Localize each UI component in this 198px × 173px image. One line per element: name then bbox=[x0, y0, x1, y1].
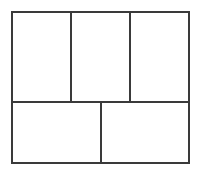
cell-top-center bbox=[71, 12, 130, 102]
cell-top-left bbox=[12, 12, 71, 102]
cell-bottom-left bbox=[12, 102, 101, 163]
top-row-divider-2 bbox=[129, 11, 131, 103]
cell-top-right bbox=[130, 12, 189, 102]
frame-left-border bbox=[11, 11, 13, 164]
frame-right-border bbox=[188, 11, 190, 164]
frame-top-border bbox=[11, 11, 190, 13]
top-row-divider-1 bbox=[70, 11, 72, 103]
diagram-canvas bbox=[0, 0, 198, 173]
bottom-row-divider bbox=[100, 101, 102, 164]
cell-bottom-right bbox=[101, 102, 189, 163]
